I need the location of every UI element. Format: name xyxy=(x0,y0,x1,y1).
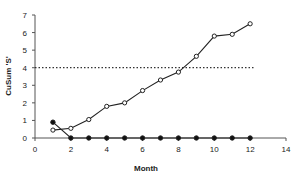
filled-circle-marker xyxy=(105,136,109,140)
y-axis-title: CuSum 'S' xyxy=(4,56,13,95)
filled-circle-marker xyxy=(248,136,252,140)
x-tick-label: 6 xyxy=(140,145,145,154)
series-line xyxy=(53,24,250,130)
filled-circle-marker xyxy=(122,136,126,140)
filled-circle-marker xyxy=(158,136,162,140)
series-line xyxy=(53,122,250,138)
y-tick-label: 3 xyxy=(23,81,28,90)
filled-circle-marker xyxy=(69,136,73,140)
open-circle-marker xyxy=(158,78,162,82)
x-tick-label: 8 xyxy=(176,145,181,154)
y-tick-label: 2 xyxy=(23,99,28,108)
y-axis: 01234567 xyxy=(23,11,35,143)
x-tick-label: 0 xyxy=(33,145,38,154)
x-tick-label: 2 xyxy=(69,145,74,154)
x-tick-label: 14 xyxy=(282,145,291,154)
open-circle-marker xyxy=(87,117,91,121)
y-tick-label: 5 xyxy=(23,46,28,55)
open-circle-marker xyxy=(230,32,234,36)
filled-circle-marker xyxy=(51,120,55,124)
open-circle-marker xyxy=(194,54,198,58)
x-axis-title: Month xyxy=(134,164,158,173)
y-tick-label: 7 xyxy=(23,11,28,20)
open-circle-marker xyxy=(69,126,73,130)
series-open xyxy=(51,22,252,133)
y-tick-label: 4 xyxy=(23,64,28,73)
open-circle-marker xyxy=(212,34,216,38)
series-layer xyxy=(51,22,253,141)
filled-circle-marker xyxy=(212,136,216,140)
y-tick-label: 0 xyxy=(23,134,28,143)
x-tick-label: 12 xyxy=(246,145,255,154)
filled-circle-marker xyxy=(230,136,234,140)
x-tick-label: 10 xyxy=(210,145,219,154)
open-circle-marker xyxy=(123,101,127,105)
filled-circle-marker xyxy=(87,136,91,140)
open-circle-marker xyxy=(248,22,252,26)
open-circle-marker xyxy=(105,104,109,108)
filled-circle-marker xyxy=(140,136,144,140)
open-circle-marker xyxy=(176,70,180,74)
x-tick-label: 4 xyxy=(104,145,109,154)
cusum-chart: 01234567 02468101214 Month CuSum 'S' xyxy=(0,0,299,178)
y-tick-label: 1 xyxy=(23,116,28,125)
filled-circle-marker xyxy=(176,136,180,140)
open-circle-marker xyxy=(51,128,55,132)
y-tick-label: 6 xyxy=(23,29,28,38)
filled-circle-marker xyxy=(194,136,198,140)
open-circle-marker xyxy=(140,88,144,92)
